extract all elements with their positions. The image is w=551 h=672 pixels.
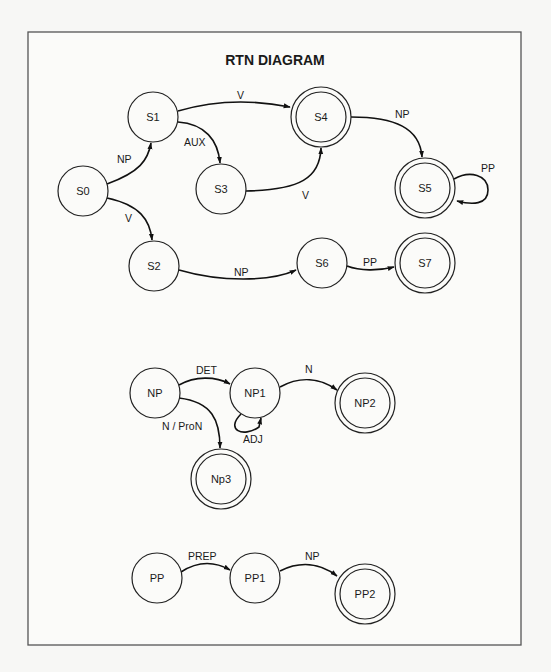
edge-label-pp-pp1: PREP	[188, 550, 217, 562]
node-label: S3	[214, 183, 227, 195]
state-node-np1: NP1	[230, 368, 280, 418]
state-node-s0: S0	[58, 166, 108, 216]
diagram-canvas: RTN DIAGRAM NP V V AUX V NP PP NP PP S0 …	[0, 0, 551, 672]
state-node-np: NP	[130, 368, 180, 418]
state-node-s6: S6	[297, 238, 347, 288]
state-node-pp1: PP1	[230, 553, 280, 603]
edge-label-s4-s5: NP	[395, 108, 410, 120]
state-node-pp2-final: PP2	[335, 564, 395, 624]
state-node-s5-final: S5	[395, 158, 455, 218]
node-label: PP1	[245, 572, 266, 584]
state-node-pp: PP	[132, 553, 182, 603]
edge-label-s5-loop: PP	[481, 162, 495, 174]
edge-label-np-np1: DET	[196, 364, 218, 376]
node-label: S2	[147, 260, 160, 272]
state-node-s7-final: S7	[395, 233, 455, 293]
node-label: NP	[147, 387, 162, 399]
rtn-diagram: RTN DIAGRAM NP V V AUX V NP PP NP PP S0 …	[0, 0, 551, 672]
node-label: S0	[76, 185, 89, 197]
edge-label-s1-s3: AUX	[184, 136, 206, 148]
diagram-title: RTN DIAGRAM	[225, 52, 325, 68]
node-label: PP2	[355, 588, 376, 600]
node-label: S4	[314, 111, 327, 123]
node-label: NP1	[244, 387, 265, 399]
state-node-np3-final: Np3	[191, 449, 251, 509]
edge-label-s0-s2: V	[125, 212, 132, 224]
edge-label-np-np3: N / ProN	[162, 420, 202, 432]
state-node-s1: S1	[128, 92, 178, 142]
node-label: S6	[315, 257, 328, 269]
edge-label-s6-s7: PP	[363, 256, 377, 268]
node-label: S5	[418, 182, 431, 194]
node-label: NP2	[354, 397, 375, 409]
node-label: S7	[418, 257, 431, 269]
state-node-s2: S2	[129, 241, 179, 291]
edge-label-np1-loop: ADJ	[243, 433, 263, 445]
node-label: PP	[150, 572, 165, 584]
edge-label-s2-s6: NP	[234, 266, 249, 278]
diagram-frame	[28, 32, 521, 645]
state-node-s4-final: S4	[291, 87, 351, 147]
edge-label-s3-s4: V	[302, 189, 309, 201]
state-node-np2-final: NP2	[335, 373, 395, 433]
edge-label-np1-np2: N	[305, 363, 313, 375]
state-node-s3: S3	[196, 164, 246, 214]
edge-label-s1-s4: V	[237, 89, 244, 101]
edge-label-s0-s1: NP	[117, 153, 132, 165]
node-label: Np3	[211, 473, 231, 485]
edge-label-pp1-pp2: NP	[305, 550, 320, 562]
node-label: S1	[146, 111, 159, 123]
